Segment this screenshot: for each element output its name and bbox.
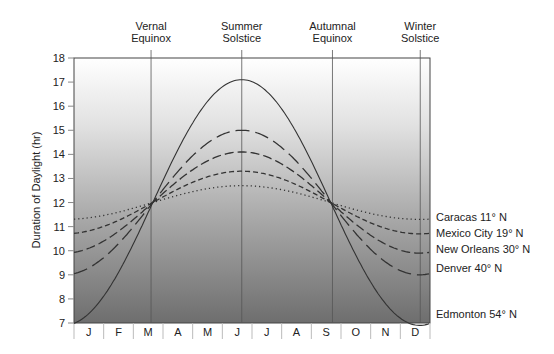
month-label: M <box>144 326 153 338</box>
month-label: A <box>174 326 182 338</box>
y-tick-label: 17 <box>53 76 65 88</box>
season-marker-label: Equinox <box>313 32 353 44</box>
season-marker-label: Equinox <box>131 32 171 44</box>
month-label: F <box>115 326 122 338</box>
month-label: M <box>203 326 212 338</box>
y-tick-label: 16 <box>53 100 65 112</box>
series-label: Mexico City 19° N <box>436 227 524 239</box>
month-label: N <box>382 326 390 338</box>
x-axis: JFMAMJJASOND <box>74 323 430 339</box>
month-label: J <box>264 326 270 338</box>
y-tick-label: 9 <box>59 269 65 281</box>
y-tick-label: 15 <box>53 124 65 136</box>
y-tick-label: 11 <box>54 221 65 233</box>
season-marker-label: Vernal <box>135 20 166 32</box>
y-tick-label: 14 <box>53 148 65 160</box>
y-tick-label: 18 <box>53 52 65 64</box>
month-label: O <box>352 326 361 338</box>
season-marker-label: Solstice <box>401 32 440 44</box>
month-label: J <box>234 326 240 338</box>
series-label: Edmonton 54° N <box>436 308 517 320</box>
month-label: J <box>86 326 92 338</box>
month-label: S <box>322 326 329 338</box>
y-tick-label: 8 <box>59 293 65 305</box>
y-tick-label: 13 <box>53 172 65 184</box>
series-label: Caracas 11° N <box>436 211 507 223</box>
month-label: D <box>411 326 419 338</box>
season-marker-label: Solstice <box>222 32 261 44</box>
season-marker-label: Winter <box>404 20 436 32</box>
month-label: A <box>293 326 301 338</box>
series-label: Denver 40° N <box>436 262 502 274</box>
daylight-chart: VernalEquinoxSummerSolsticeAutumnalEquin… <box>0 0 554 354</box>
y-tick-label: 7 <box>59 317 65 329</box>
y-tick-label: 10 <box>53 245 65 257</box>
season-marker-label: Summer <box>221 20 263 32</box>
series-labels: Caracas 11° NMexico City 19° NNew Orlean… <box>436 211 530 320</box>
season-marker-label: Autumnal <box>309 20 355 32</box>
y-axis-label: Duration of Daylight (hr) <box>30 132 42 249</box>
y-axis: 789101112131415161718 <box>53 52 74 329</box>
series-label: New Orleans 30° N <box>436 243 530 255</box>
plot-area <box>74 58 430 323</box>
y-tick-label: 12 <box>53 197 65 209</box>
